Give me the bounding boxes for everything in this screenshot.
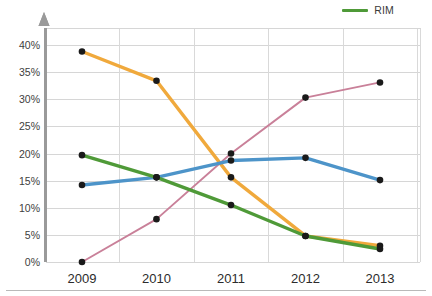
y-tick-label: 25% (19, 120, 40, 132)
x-tick-label: 2011 (217, 271, 245, 286)
y-tick-label: 5% (25, 229, 40, 241)
data-point-marker (153, 174, 160, 181)
x-tick-label: 2009 (68, 271, 97, 286)
data-point-marker (228, 174, 235, 181)
y-axis-spine (39, 12, 50, 262)
data-point-marker (79, 182, 86, 189)
y-tick-label: 40% (19, 39, 40, 51)
line-chart: RIM 0%5%10%15%20%25%30%35%40% 2009201020… (0, 0, 432, 296)
data-point-marker (228, 157, 235, 164)
y-tick-label: 30% (19, 93, 40, 105)
x-tick-label: 2010 (142, 271, 171, 286)
series-markers (79, 48, 384, 265)
data-point-marker (377, 177, 384, 184)
data-point-marker (228, 150, 235, 157)
x-tick-labels: 20092010201120122013 (68, 271, 395, 286)
series-line-orange-series (82, 52, 380, 246)
data-point-marker (79, 259, 86, 266)
data-point-marker (153, 78, 160, 85)
y-tick-label: 20% (19, 148, 40, 160)
x-tick-label: 2013 (366, 271, 395, 286)
y-tick-label: 10% (19, 202, 40, 214)
data-point-marker (228, 202, 235, 209)
data-point-marker (377, 246, 384, 253)
y-tick-label: 15% (19, 175, 40, 187)
data-point-marker (302, 155, 309, 162)
x-tick-label: 2012 (291, 271, 320, 286)
data-point-marker (153, 216, 160, 223)
y-tick-labels: 0%5%10%15%20%25%30%35%40% (19, 39, 40, 268)
data-point-marker (79, 48, 86, 55)
y-tick-label: 0% (25, 256, 40, 268)
x-gridlines (46, 28, 421, 262)
data-point-marker (302, 233, 309, 240)
data-point-marker (377, 79, 384, 86)
y-tick-label: 35% (19, 66, 40, 78)
data-point-marker (79, 152, 86, 159)
data-point-marker (302, 94, 309, 101)
chart-plot-area: 0%5%10%15%20%25%30%35%40% 20092010201120… (0, 0, 432, 296)
